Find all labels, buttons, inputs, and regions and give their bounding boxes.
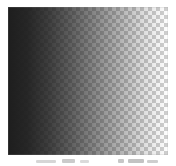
caption-remnant (0, 157, 176, 166)
caption-smudge (36, 160, 56, 163)
caption-smudge (118, 159, 124, 163)
caption-smudge (80, 160, 89, 163)
caption-smudge (147, 160, 158, 163)
alpha-gradient-overlay (8, 7, 168, 155)
caption-smudge (128, 159, 144, 163)
figure-root (0, 0, 176, 166)
caption-smudge (62, 159, 75, 163)
alpha-gradient-swatch (8, 7, 168, 155)
